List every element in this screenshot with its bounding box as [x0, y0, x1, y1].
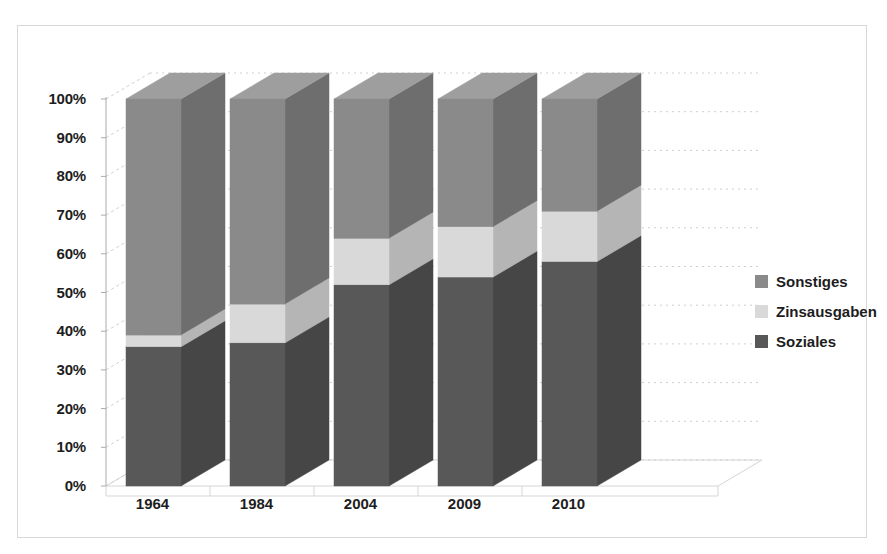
x-axis-tick-labels: 19641984200420092010: [0, 0, 887, 554]
x-tick-label-2004: 2004: [316, 496, 406, 511]
x-tick-label-2010: 2010: [524, 496, 614, 511]
x-tick-label-1984: 1984: [212, 496, 302, 511]
x-tick-label-1964: 1964: [108, 496, 198, 511]
x-tick-label-2009: 2009: [420, 496, 510, 511]
